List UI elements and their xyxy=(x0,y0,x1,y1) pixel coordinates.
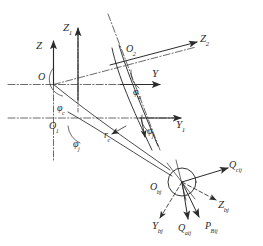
vector-label-q-aij: Qaij xyxy=(178,223,192,235)
vector-label-rc: rc xyxy=(104,130,111,142)
vector-arrow-z-bj xyxy=(182,182,216,200)
point-label-o: O xyxy=(38,72,45,84)
link-lower-edge xyxy=(68,112,172,176)
point-label-o1: O1 xyxy=(49,121,59,133)
axis-label-y: Y xyxy=(152,68,158,82)
axis-label-z-bj: Zbj xyxy=(218,199,229,213)
point-label-o-bj: Obj xyxy=(150,182,162,194)
angle-label-phi-c: φc xyxy=(57,103,65,115)
vector-label-q-cij: Qcij xyxy=(229,160,242,172)
angle-label-phi-a: φa xyxy=(133,87,142,99)
vector-arrow-y-bj xyxy=(160,182,182,218)
axis-label-y1: Y1 xyxy=(176,119,186,133)
angle-label-phi-j-rod: φj xyxy=(147,126,154,138)
axis-label-z: Z xyxy=(36,40,42,54)
axis-label-z1: Z1 xyxy=(63,22,73,36)
joint-crossline-b xyxy=(176,160,186,200)
angle-arc-phi-c xyxy=(49,68,62,96)
axis-line-z2-base xyxy=(54,47,197,85)
point-label-o2: O2 xyxy=(126,44,136,56)
vector-label-p-bij: PBij xyxy=(205,221,218,233)
angle-label-phi-j: φj xyxy=(73,139,80,151)
axis-label-y-bj: Ybj xyxy=(152,220,163,234)
axis-label-z2: Z2 xyxy=(200,33,210,47)
diagram-canvas: Z Z1 Z2 Y Y1 Zbj Ybj O O1 O2 Obj φc φj φ… xyxy=(0,0,263,246)
